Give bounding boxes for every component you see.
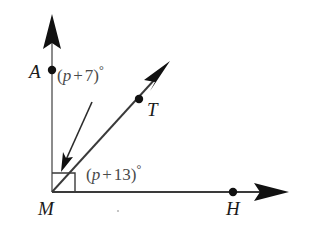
angle-tmh-operator: + xyxy=(100,165,114,184)
angle-amt-variable: p xyxy=(63,66,72,85)
diagram-canvas: A M T H (p+7)° (p+13)° xyxy=(0,0,315,233)
scan-speck xyxy=(117,210,119,212)
point-label-M: M xyxy=(38,199,54,218)
point-label-T: T xyxy=(147,100,158,119)
angle-amt-constant: 7 xyxy=(85,66,94,85)
point-label-A: A xyxy=(29,62,41,81)
point-dot-T xyxy=(135,95,143,103)
angle-tmh-constant: 13 xyxy=(114,165,131,184)
angle-amt-degree-symbol: ° xyxy=(99,63,104,77)
angle-label-tmh: (p+13)° xyxy=(86,163,141,183)
angle-amt-operator: + xyxy=(71,66,85,85)
leader-arrow-head xyxy=(61,152,73,172)
angle-label-amt: (p+7)° xyxy=(57,64,104,84)
point-dot-A xyxy=(48,66,56,74)
point-dot-H xyxy=(229,188,237,196)
point-label-H: H xyxy=(226,199,240,218)
angle-tmh-variable: p xyxy=(92,165,101,184)
angle-tmh-degree-symbol: ° xyxy=(136,162,141,176)
